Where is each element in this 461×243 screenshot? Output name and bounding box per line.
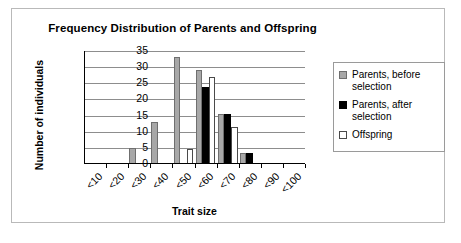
y-axis-tick-label: 25: [118, 77, 148, 88]
x-axis-tick: [195, 164, 196, 168]
legend-swatch-parents-before: [339, 71, 347, 79]
legend-label: Parents, after selection: [352, 99, 439, 122]
x-axis-tick: [172, 164, 173, 168]
x-axis-tick: [239, 164, 240, 168]
bar: [209, 77, 216, 164]
y-axis-line: [84, 51, 85, 164]
legend-item: Offspring: [339, 129, 439, 141]
x-axis-tick: [305, 164, 306, 168]
y-axis-tick-label: 20: [118, 93, 148, 104]
y-axis-tick-label: 15: [118, 110, 148, 121]
x-axis-tick-label: <40: [141, 170, 171, 200]
chart-title: Frequency Distribution of Parents and Of…: [12, 22, 353, 34]
y-axis-tick-label: 10: [118, 126, 148, 137]
chart-frame: Frequency Distribution of Parents and Of…: [11, 8, 445, 223]
legend-label: Parents, before selection: [352, 69, 439, 92]
bar: [196, 70, 203, 164]
bar: [224, 114, 231, 164]
bar: [218, 114, 225, 164]
y-axis-tick-label: 35: [118, 45, 148, 56]
bar: [202, 87, 209, 164]
x-axis-tick: [150, 164, 151, 168]
x-axis-tick: [106, 164, 107, 168]
x-axis-title: Trait size: [84, 205, 305, 217]
y-axis-tick-label: 5: [118, 142, 148, 153]
bar: [174, 57, 181, 164]
legend-swatch-offspring: [339, 131, 347, 139]
bar: [231, 127, 238, 164]
x-axis-tick: [283, 164, 284, 168]
legend-swatch-parents-after: [339, 101, 347, 109]
legend-label: Offspring: [352, 129, 392, 141]
legend-item: Parents, before selection: [339, 69, 439, 92]
y-axis-tick-label: 30: [118, 61, 148, 72]
y-axis-title: Number of individuals: [33, 55, 45, 175]
x-axis-tick: [261, 164, 262, 168]
x-axis-tick-label: <50: [163, 170, 193, 200]
y-axis-tick-label: 0: [118, 158, 148, 169]
bar: [151, 122, 158, 164]
chart-legend: Parents, before selection Parents, after…: [333, 62, 445, 152]
bar: [187, 149, 194, 164]
legend-item: Parents, after selection: [339, 99, 439, 122]
x-axis-tick: [217, 164, 218, 168]
